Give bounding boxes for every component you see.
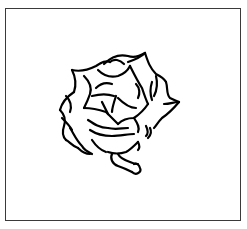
outer-petals	[60, 53, 179, 154]
stem	[111, 154, 140, 174]
rose-drawing	[0, 0, 247, 229]
inner-petals	[84, 66, 148, 124]
